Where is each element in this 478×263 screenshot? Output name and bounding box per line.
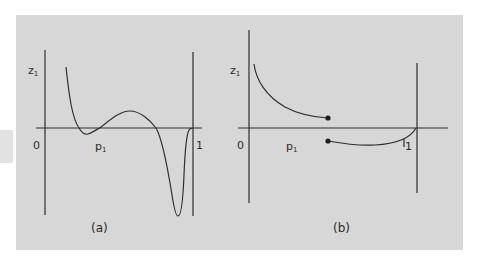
panel-b-right-label: 1: [405, 141, 412, 152]
panel-b-lower-branch: [328, 128, 416, 145]
panel-a-origin-label: 0: [33, 140, 40, 151]
panel-a-right-label: 1: [196, 140, 203, 151]
panel-b-open-end-dot: [325, 115, 330, 120]
panel-a-x-label: p1: [95, 141, 106, 152]
panel-a-y-label: z1: [28, 65, 38, 76]
panel-b-start-dot: [325, 138, 330, 143]
panel-b-upper-branch: [254, 64, 328, 118]
panel-a-caption: (a): [91, 222, 108, 234]
panel-b-origin-label: 0: [237, 140, 244, 151]
panel-a-curve: [66, 67, 193, 216]
panel-b-x-label: p1: [286, 141, 297, 152]
panel-b-y-label: z1: [230, 65, 240, 76]
figure-diagram: [0, 0, 478, 263]
panel-b-caption: (b): [333, 222, 350, 234]
